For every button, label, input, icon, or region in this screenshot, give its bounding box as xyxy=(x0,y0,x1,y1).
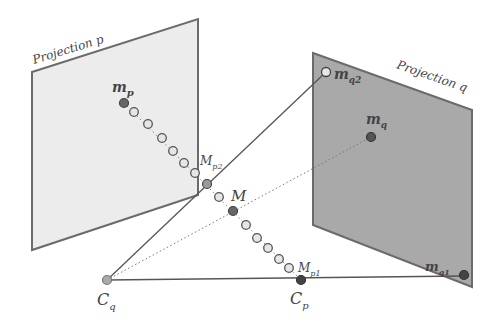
point-M-p2 xyxy=(203,180,212,189)
label-M: M xyxy=(230,187,247,205)
baseline-cq-mq1 xyxy=(107,276,464,280)
point-m-q1 xyxy=(460,271,469,280)
label-C-p: Cp xyxy=(290,289,309,311)
label-M-p2: Mp2 xyxy=(199,154,223,171)
label-C-q: Cq xyxy=(97,290,116,312)
point-m-q xyxy=(367,133,376,142)
point-m-q2 xyxy=(322,68,331,77)
stereo-projection-diagram: Projection p Projection q mp Mp2 M Mp1 C… xyxy=(0,0,499,332)
point-C-p xyxy=(297,276,306,285)
point-m-p xyxy=(120,99,129,108)
point-M xyxy=(229,207,238,216)
point-C-q xyxy=(103,276,112,285)
